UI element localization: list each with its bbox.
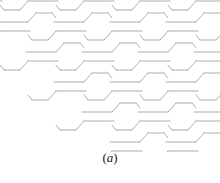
- figure-caption: (a): [0, 150, 220, 166]
- figure-container: (a): [0, 0, 220, 183]
- tessellation-diagram: [0, 0, 220, 152]
- caption-close-paren: ): [113, 150, 117, 165]
